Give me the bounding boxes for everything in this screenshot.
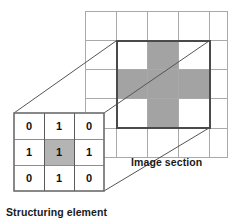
shaded-cell-c3r2	[178, 69, 209, 98]
image-section-label: Image section	[131, 156, 202, 168]
se-cell-r2c0: 0	[14, 173, 44, 184]
se-cell-r1c0: 1	[14, 147, 44, 158]
se-cell-r1c2: 1	[74, 147, 104, 158]
se-cell-r0c1: 1	[44, 121, 74, 132]
se-cell-r1c1: 1	[44, 147, 74, 158]
diagram-vector-layer	[0, 0, 238, 224]
figure-morphology-diagram: 0 1 0 1 1 1 0 1 0 Image section Structur…	[0, 0, 238, 224]
image-section-shaded-cells	[116, 40, 209, 128]
shaded-cell-c2r1	[147, 40, 178, 69]
se-cell-r0c2: 0	[74, 121, 104, 132]
se-cell-r0c0: 0	[14, 121, 44, 132]
shaded-cell-c2r3	[147, 98, 178, 128]
se-cell-r2c2: 0	[74, 173, 104, 184]
se-cell-r2c1: 1	[44, 173, 74, 184]
top-left-connector-line	[14, 41, 116, 113]
structuring-element-label: Structuring element	[6, 206, 107, 218]
